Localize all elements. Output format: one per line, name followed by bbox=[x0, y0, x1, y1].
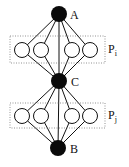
hub-node-a bbox=[51, 6, 67, 22]
hub-node-c bbox=[51, 73, 67, 89]
node-label-b: B bbox=[70, 142, 78, 156]
inner-node bbox=[15, 109, 30, 124]
edge bbox=[58, 81, 59, 148]
group-label-pj: Pj bbox=[108, 108, 117, 124]
group-label-pi: Pi bbox=[108, 42, 118, 58]
labels: A C B Pi Pj bbox=[70, 8, 118, 156]
inner-node bbox=[83, 43, 98, 58]
node-label-a: A bbox=[70, 8, 79, 22]
inner-node bbox=[34, 109, 49, 124]
inner-node bbox=[65, 43, 80, 58]
inner-node bbox=[34, 43, 49, 58]
nodes bbox=[15, 6, 98, 156]
node-label-c: C bbox=[71, 75, 79, 89]
series-parallel-graph: A C B Pi Pj bbox=[0, 0, 129, 167]
hub-node-b bbox=[50, 140, 66, 156]
inner-node bbox=[65, 109, 80, 124]
inner-node bbox=[83, 109, 98, 124]
inner-node bbox=[15, 43, 30, 58]
